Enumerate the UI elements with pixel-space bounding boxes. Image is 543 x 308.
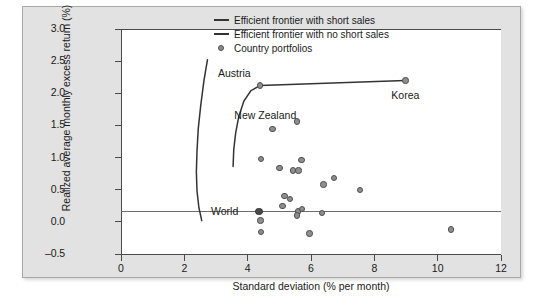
legend-item: Efficient frontier with short sales [208,13,423,27]
legend-label: Efficient frontier with short sales [234,15,375,26]
legend-label: Efficient frontier with no short sales [234,29,389,40]
legend-line-swatch [214,33,229,35]
legend-item: Efficient frontier with no short sales [208,27,423,41]
x-axis-title: Standard deviation (% per month) [121,280,501,292]
legend-key [208,45,234,51]
legend-marker-swatch [218,45,224,51]
y-axis-title: Realized average monthly excess return (… [60,3,72,213]
point-label-korea: Korea [391,89,419,101]
point-label-austria: Austria [218,67,251,79]
point-label-world: World [211,205,238,217]
legend-key [208,33,234,35]
point-label-new-zealand: New Zealand [234,109,296,121]
legend-label: Country portfolios [234,43,312,54]
chart-legend: Efficient frontier with short salesEffic… [208,13,423,55]
legend-line-swatch [214,19,229,21]
legend-item: Country portfolios [208,41,423,55]
figure-frame: 3.02.52.01.51.00.50.0–0.5024681012 Austr… [22,6,521,278]
legend-key [208,19,234,21]
